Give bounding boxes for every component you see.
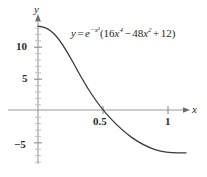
function-plot-figure: 10 5 −5 0.5 1 x y y=e−x²(16x4−48x2+12) — [0, 0, 207, 177]
equation-equals: = — [76, 27, 85, 39]
x-axis-label: x — [192, 104, 197, 115]
equation-term3-constant: 12 — [161, 27, 172, 39]
x-tick-label-1: 1 — [165, 116, 171, 127]
equation-annotation: y=e−x²(16x4−48x2+12) — [71, 27, 176, 39]
equation-plus-operator: + — [152, 27, 161, 39]
x-tick-label-0point5: 0.5 — [93, 116, 107, 127]
y-tick-label-minus-5: −5 — [14, 139, 26, 150]
y-axis-arrowhead — [35, 14, 40, 21]
equation-minus-operator: − — [123, 27, 132, 39]
y-tick-label-5: 5 — [22, 73, 28, 84]
y-axis-label: y — [34, 4, 39, 15]
equation-term2-coefficient: 48 — [132, 27, 143, 39]
x-axis-arrowhead — [183, 107, 190, 112]
equation-exponent: −x² — [90, 26, 100, 34]
equation-term1-coefficient: 16 — [104, 27, 115, 39]
function-curve — [38, 26, 186, 153]
y-tick-label-10: 10 — [16, 41, 27, 52]
equation-close-paren: ) — [172, 27, 176, 39]
